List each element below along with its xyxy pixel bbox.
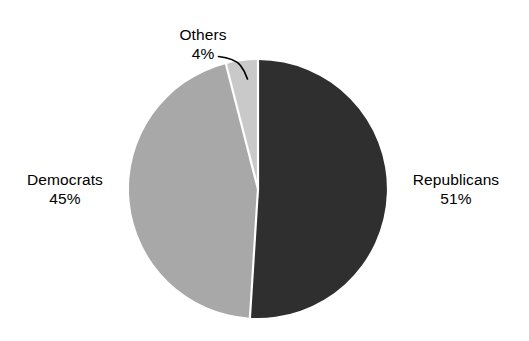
slice-label-republicans: Republicans 51% — [392, 171, 520, 209]
slice-label-others-name: Others — [148, 26, 258, 45]
slice-label-others: Others 4% — [148, 26, 258, 64]
slice-label-republicans-name: Republicans — [392, 171, 520, 190]
slice-label-democrats: Democrats 45% — [6, 171, 124, 209]
slice-label-democrats-value: 45% — [6, 190, 124, 209]
slice-label-others-value: 4% — [148, 45, 258, 64]
pie-chart: Others 4% Democrats 45% Republicans 51% — [0, 0, 529, 341]
slice-label-republicans-value: 51% — [392, 190, 520, 209]
slice-label-democrats-name: Democrats — [6, 171, 124, 190]
pie-slice-republicans[interactable] — [250, 60, 387, 318]
